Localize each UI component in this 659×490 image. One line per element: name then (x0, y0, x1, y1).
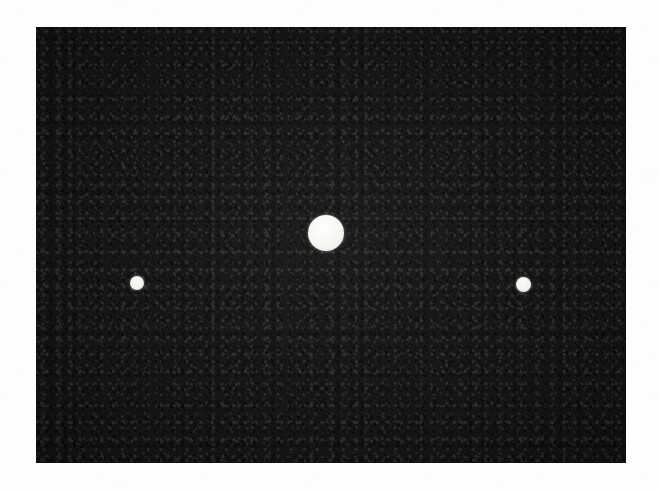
spot-left (130, 276, 144, 290)
figure-root (0, 0, 659, 490)
dark-field-plate (36, 27, 626, 463)
spot-right (516, 277, 531, 292)
spot-center (308, 215, 344, 251)
